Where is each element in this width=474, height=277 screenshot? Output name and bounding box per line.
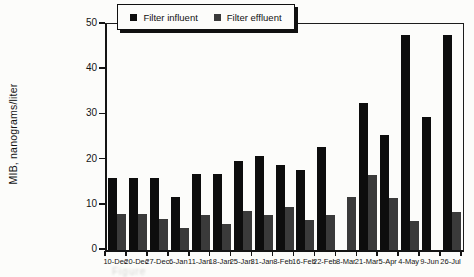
bar-influent-8-Feb (276, 165, 285, 250)
y-tick-mark-0 (99, 248, 105, 250)
legend-entry-influent: Filter influent (130, 12, 197, 23)
bar-influent-6-Jan (171, 197, 180, 250)
legend-entry-effluent: Filter effluent (214, 12, 282, 23)
bar-effluent-10-Dec (117, 214, 126, 250)
bar-effluent-18-Jan (222, 224, 231, 250)
y-tick-label-50: 50 (75, 18, 97, 28)
x-tick-mark-0 (104, 251, 106, 256)
x-tick-mark-4 (188, 251, 190, 256)
bar-effluent-6-Jan (180, 228, 189, 250)
y-tick-label-40: 40 (75, 63, 97, 73)
bar-effluent-5-Apr (389, 198, 398, 250)
y-tick-label-20: 20 (75, 154, 97, 164)
bar-influent-16-Feb (296, 170, 305, 250)
x-tick-mark-8 (272, 251, 274, 256)
bar-influent-21-Mar (359, 103, 368, 250)
x-tick-mark-11 (335, 251, 337, 256)
x-tick-mark-14 (397, 251, 399, 256)
y-tick-label-30: 30 (75, 108, 97, 118)
x-tick-mark-6 (230, 251, 232, 256)
plot-area (105, 23, 464, 252)
y-tick-mark-30 (99, 113, 105, 115)
y-tick-mark-20 (99, 158, 105, 160)
bar-effluent-31-Jan (264, 215, 273, 250)
y-tick-label-10: 10 (75, 199, 97, 209)
x-tick-mark-15 (418, 251, 420, 256)
bar-effluent-8-Mar (347, 197, 356, 250)
x-tick-mark-16 (439, 251, 441, 256)
caption-remnant: Figure (112, 266, 146, 277)
y-axis-label: MIB, nanograms/liter (7, 64, 19, 204)
chart-figure: MIB, nanograms/liter 01020304050 10-Dec2… (0, 0, 474, 277)
influent-swatch-icon (130, 14, 137, 21)
y-tick-mark-10 (99, 203, 105, 205)
bar-effluent-11-Jan (201, 215, 210, 250)
bar-effluent-8-Feb (285, 207, 294, 250)
bar-effluent-4-May (410, 221, 419, 250)
y-tick-mark-40 (99, 67, 105, 69)
bar-influent-25-Jan (234, 161, 243, 250)
x-tick-mark-12 (356, 251, 358, 256)
bar-influent-18-Jan (213, 174, 222, 250)
bar-influent-11-Jan (192, 174, 201, 250)
x-tick-mark-17 (460, 251, 462, 256)
legend: Filter influent Filter effluent (117, 4, 295, 30)
bar-influent-26-Jul (443, 35, 452, 250)
x-tick-label-26-Jul: 26-Jul (429, 257, 473, 266)
x-tick-mark-9 (293, 251, 295, 256)
bar-influent-9-Jun (422, 117, 431, 250)
legend-label-influent: Filter influent (143, 12, 197, 23)
x-tick-mark-7 (251, 251, 253, 256)
x-tick-mark-10 (314, 251, 316, 256)
bar-influent-5-Apr (380, 135, 389, 250)
bar-effluent-25-Jan (243, 211, 252, 250)
bar-effluent-20-Dec (138, 214, 147, 250)
bar-effluent-21-Mar (368, 175, 377, 250)
x-tick-mark-13 (376, 251, 378, 256)
x-tick-mark-2 (146, 251, 148, 256)
bar-effluent-27-Dec (159, 219, 168, 250)
bar-effluent-26-Jul (452, 212, 461, 250)
x-tick-mark-3 (167, 251, 169, 256)
bar-influent-4-May (401, 35, 410, 250)
x-tick-mark-5 (209, 251, 211, 256)
bar-influent-22-Feb (317, 147, 326, 250)
bar-influent-27-Dec (150, 178, 159, 250)
bar-effluent-16-Feb (305, 220, 314, 250)
y-tick-mark-50 (99, 22, 105, 24)
legend-label-effluent: Filter effluent (227, 12, 282, 23)
bar-effluent-22-Feb (326, 215, 335, 250)
bar-influent-31-Jan (255, 156, 264, 250)
x-tick-mark-1 (125, 251, 127, 256)
y-tick-label-0: 0 (75, 244, 97, 254)
bar-influent-20-Dec (129, 178, 138, 250)
bar-influent-10-Dec (108, 178, 117, 250)
effluent-swatch-icon (214, 14, 221, 21)
